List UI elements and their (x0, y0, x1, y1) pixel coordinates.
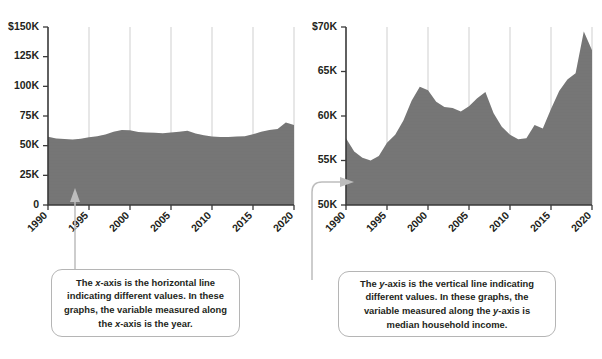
x-tick-label: 2010 (486, 209, 511, 234)
x-tick-label: 2005 (445, 209, 470, 234)
x-tick-label: 1995 (363, 209, 388, 234)
x-tick-label: 1990 (24, 209, 49, 234)
y-tick-label: 50K (20, 138, 40, 150)
x-tick-label: 2005 (147, 209, 172, 234)
x-tick-label: 2000 (106, 209, 131, 234)
x-tick-label: 1995 (65, 209, 90, 234)
y-tick-label: 75K (20, 109, 40, 121)
x-tick-label: 2015 (527, 209, 552, 234)
y-tick-label: 100K (14, 79, 40, 91)
y-axis-callout: The y-axis is the vertical line indicati… (338, 271, 556, 337)
x-axis-callout: The x-axis is the horizontal line indica… (51, 269, 240, 337)
y-axis-callout-text: The y-axis is the vertical line indicati… (348, 277, 546, 332)
y-tick-label: 60K (318, 109, 338, 121)
right-chart-panel: 50K55K60K65K$70K199019952000200520102015… (301, 0, 602, 250)
y-tick-label: $150K (8, 20, 39, 32)
x-axis-callout-text: The x-axis is the horizontal line indica… (61, 276, 230, 331)
left-chart-svg: 025K50K75K100K125K$150K19901995200020052… (0, 0, 301, 250)
left-chart-panel: 025K50K75K100K125K$150K19901995200020052… (0, 0, 301, 250)
y-tick-label: 125K (14, 49, 40, 61)
figure-root: 025K50K75K100K125K$150K19901995200020052… (0, 0, 602, 359)
right-chart-svg: 50K55K60K65K$70K199019952000200520102015… (301, 0, 602, 250)
y-tick-label: $70K (312, 20, 338, 32)
y-tick-label: 55K (318, 153, 338, 165)
y-tick-label: 50K (318, 198, 338, 210)
x-tick-label: 1990 (322, 209, 347, 234)
x-tick-label: 2020 (270, 209, 295, 234)
y-tick-label: 65K (318, 64, 338, 76)
x-tick-label: 2010 (188, 209, 213, 234)
x-tick-label: 2000 (404, 209, 429, 234)
x-tick-label: 2020 (568, 209, 593, 234)
x-tick-label: 2015 (229, 209, 254, 234)
y-tick-label: 0 (33, 198, 39, 210)
y-tick-label: 25K (20, 168, 40, 180)
